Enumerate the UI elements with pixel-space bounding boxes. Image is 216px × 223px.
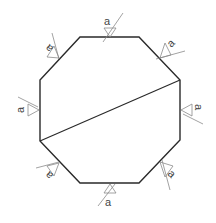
fillet-weld-triangle — [28, 104, 39, 116]
weld-size-label: a — [164, 36, 177, 49]
weld-size-label: a — [104, 15, 111, 27]
weld-size-label: a — [166, 167, 179, 180]
weld-symbol-bottom-right: a — [160, 160, 179, 190]
weld-symbol-right: a — [181, 104, 205, 124]
fillet-weld-triangle — [181, 104, 192, 116]
weld-symbol-bottom-left: a — [36, 162, 59, 182]
reference-line — [156, 51, 185, 59]
weld-size-label: a — [42, 42, 55, 55]
weld-size-label: a — [105, 196, 112, 208]
weld-size-label: a — [193, 104, 205, 111]
reference-line — [183, 114, 203, 124]
weld-symbol-top-right: a — [156, 36, 185, 59]
weld-size-label: a — [14, 106, 26, 113]
weld-symbol-left: a — [14, 97, 39, 116]
weld-diagram: a a a a a a a a — [0, 0, 216, 223]
weld-symbol-top-left: a — [42, 33, 59, 59]
weld-symbol-bottom: a — [98, 184, 116, 208]
diagonal-cut-line — [40, 80, 180, 141]
weld-size-label: a — [42, 169, 55, 182]
